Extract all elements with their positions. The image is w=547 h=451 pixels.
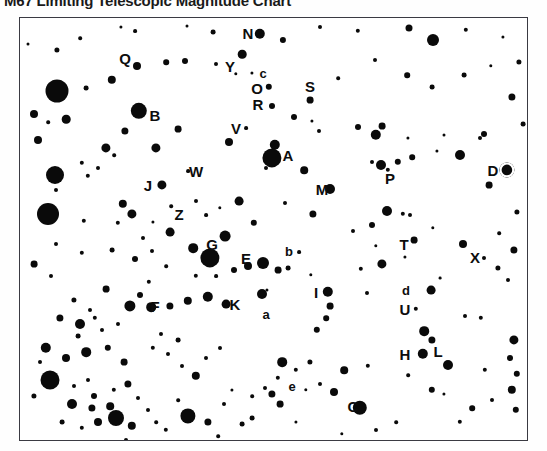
star-marker — [521, 122, 526, 127]
star-marker — [486, 182, 493, 189]
star-marker — [366, 364, 370, 368]
star-marker — [218, 206, 221, 209]
star-marker — [240, 422, 245, 427]
star-marker — [150, 249, 154, 253]
star-marker — [182, 58, 188, 64]
star-marker — [370, 160, 374, 164]
star-marker — [469, 405, 475, 411]
star-marker — [327, 303, 334, 310]
star-marker — [146, 408, 150, 412]
star-marker — [506, 278, 510, 282]
star-marker — [46, 166, 64, 184]
star-marker — [275, 267, 282, 274]
star-marker — [427, 34, 439, 46]
star-marker — [376, 160, 386, 170]
star-marker — [409, 154, 415, 160]
star-marker — [401, 212, 405, 216]
star-label-I: I — [314, 285, 318, 300]
star-marker — [514, 371, 520, 377]
star-marker — [119, 200, 127, 208]
star-marker — [250, 394, 254, 398]
star-marker — [110, 248, 115, 253]
star-marker — [147, 280, 151, 284]
star-marker — [238, 50, 247, 59]
star-marker — [80, 161, 84, 165]
star-marker — [154, 420, 158, 424]
star-marker — [100, 328, 104, 332]
star-marker — [443, 360, 453, 370]
star-marker — [91, 393, 97, 399]
star-marker — [81, 347, 91, 357]
star-marker — [307, 359, 312, 364]
star-marker — [404, 72, 410, 78]
star-marker — [382, 206, 392, 216]
star-label-a: a — [262, 308, 269, 321]
star-marker — [373, 58, 377, 62]
star-marker — [54, 47, 59, 52]
star-marker — [442, 392, 445, 395]
star-marker — [507, 355, 513, 361]
star-marker — [351, 229, 355, 233]
star-marker — [203, 292, 213, 302]
star-marker — [106, 402, 114, 410]
star-marker — [86, 378, 90, 382]
star-marker — [54, 242, 58, 246]
star-marker — [124, 438, 128, 441]
star-label-J: J — [144, 178, 152, 193]
star-marker — [192, 372, 200, 380]
star-marker — [501, 35, 504, 38]
star-marker — [508, 93, 515, 100]
star-marker — [137, 292, 143, 298]
star-label-T: T — [399, 237, 408, 252]
star-marker — [84, 86, 89, 91]
star-marker — [230, 388, 233, 391]
star-marker — [497, 231, 501, 235]
star-marker — [141, 236, 145, 240]
star-marker — [124, 380, 131, 387]
star-label-A: A — [283, 148, 294, 163]
star-marker — [169, 204, 173, 208]
star-marker — [80, 251, 84, 255]
star-marker — [509, 335, 518, 344]
star-marker — [31, 393, 36, 398]
star-marker — [430, 85, 435, 90]
star-marker — [455, 150, 465, 160]
star-marker — [431, 226, 434, 229]
star-marker — [88, 404, 95, 411]
star-marker — [184, 297, 192, 305]
star-marker — [478, 136, 482, 140]
chart-frame: QNYcORSBVAWJMPDZGEbTXFKaIdUHLeC — [19, 17, 528, 441]
star-label-c: c — [259, 67, 266, 80]
star-marker — [459, 240, 467, 248]
star-marker — [235, 197, 244, 206]
star-marker — [406, 373, 410, 377]
star-label-b: b — [285, 245, 293, 258]
star-marker — [318, 25, 322, 29]
star-marker — [94, 418, 102, 426]
star-label-Q: Q — [119, 51, 131, 66]
star-marker — [186, 25, 189, 28]
star-marker — [204, 213, 208, 217]
star-marker — [46, 80, 69, 103]
star-marker — [166, 302, 173, 309]
star-marker — [211, 30, 216, 35]
star-marker — [188, 243, 198, 253]
star-marker — [257, 257, 269, 269]
star-marker — [340, 366, 348, 374]
star-marker — [435, 149, 438, 152]
star-marker — [408, 213, 412, 217]
star-marker — [359, 267, 363, 271]
star-label-d: d — [402, 284, 410, 297]
star-marker — [276, 376, 280, 380]
star-marker — [263, 386, 267, 390]
star-marker — [330, 388, 338, 396]
star-marker — [269, 103, 275, 109]
star-marker — [286, 266, 291, 271]
star-marker — [250, 416, 255, 421]
star-label-M: M — [316, 182, 329, 197]
star-label-L: L — [433, 344, 442, 359]
star-marker — [244, 126, 248, 130]
star-marker — [463, 314, 467, 318]
star-marker — [513, 407, 519, 413]
star-marker — [406, 136, 409, 139]
